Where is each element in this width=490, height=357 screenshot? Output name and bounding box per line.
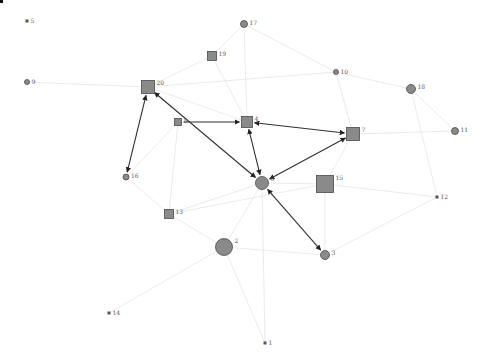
edge-7-4[interactable]: [255, 123, 345, 133]
faint-edge-20-10: [148, 72, 336, 87]
graph-node[interactable]: 18: [0, 0, 425, 94]
graph-node[interactable]: 14: [108, 309, 121, 316]
faint-edge-4-17: [244, 24, 247, 122]
node-label: 20: [157, 79, 165, 86]
faint-edge-2-14: [109, 247, 224, 313]
faint-edge-19-4: [212, 56, 247, 122]
circle-node-icon: [321, 251, 330, 260]
dot-node-icon: [26, 20, 29, 23]
graph-node[interactable]: 12: [436, 193, 449, 200]
node-label: 1: [269, 339, 273, 346]
edge-16-20[interactable]: [127, 95, 146, 172]
faint-edge-16-13: [126, 177, 169, 214]
circle-node-icon: [25, 80, 30, 85]
node-label: 14: [113, 309, 121, 316]
faint-edge-6-15: [262, 183, 325, 184]
graph-node[interactable]: 6: [0, 0, 275, 190]
faint-edge-3-12: [325, 197, 437, 255]
square-node-icon: [165, 210, 174, 219]
node-label: 12: [441, 193, 449, 200]
faint-edge-layer: [27, 24, 455, 343]
node-layer: 1234567891011121314151617181920: [0, 0, 468, 346]
edge-4-6[interactable]: [249, 129, 260, 174]
faint-edge-18-11: [411, 89, 455, 131]
faint-edge-7-11: [353, 131, 455, 134]
node-label: 9: [32, 78, 36, 85]
graph-node[interactable]: 16: [0, 0, 139, 180]
node-label: 8: [184, 117, 188, 124]
node-label: 11: [461, 126, 469, 133]
square-node-icon: [347, 128, 360, 141]
edge-6-3[interactable]: [268, 189, 321, 250]
square-node-icon: [175, 119, 182, 126]
circle-node-icon: [123, 174, 129, 180]
graph-node[interactable]: 10: [0, 0, 348, 75]
faint-edge-13-15: [169, 184, 325, 214]
dot-node-icon: [436, 196, 439, 199]
graph-node[interactable]: 20: [0, 0, 164, 94]
graph-node[interactable]: 2: [0, 0, 239, 256]
node-label: 17: [250, 19, 258, 26]
node-label: 5: [31, 17, 35, 24]
node-label: 16: [131, 172, 139, 179]
node-label: 15: [336, 174, 344, 181]
faint-edge-2-1: [224, 247, 265, 343]
square-node-icon: [317, 176, 334, 193]
node-label: 19: [219, 50, 227, 57]
graph-node[interactable]: 5: [26, 17, 35, 24]
square-node-icon: [142, 81, 155, 94]
circle-node-icon: [216, 239, 233, 256]
graph-node[interactable]: 11: [0, 0, 468, 135]
graph-node[interactable]: 19: [0, 0, 226, 61]
node-label: 18: [418, 83, 426, 90]
square-node-icon: [208, 52, 217, 61]
node-label: 4: [255, 115, 259, 122]
faint-edge-6-2: [224, 183, 262, 247]
graph-node[interactable]: 15: [0, 0, 343, 193]
node-label: 6: [271, 175, 275, 182]
node-label: 3: [332, 249, 336, 256]
faint-edge-13-8: [169, 122, 178, 214]
graph-node[interactable]: 17: [0, 0, 257, 28]
square-node-icon: [242, 117, 253, 128]
faint-edge-15-12: [325, 184, 437, 197]
faint-edge-20-4: [148, 87, 247, 122]
circle-node-icon: [407, 85, 416, 94]
node-label: 10: [341, 68, 349, 75]
network-graph-canvas[interactable]: 1234567891011121314151617181920: [0, 0, 490, 357]
faint-edge-2-13: [169, 214, 224, 247]
node-label: 13: [176, 208, 184, 215]
edge-stub-icon: [0, 0, 3, 3]
graph-node[interactable]: 4: [0, 0, 259, 128]
faint-edge-8-16: [126, 122, 178, 177]
circle-node-icon: [334, 70, 339, 75]
faint-edge-17-10: [244, 24, 336, 72]
edge-20-6[interactable]: [155, 93, 256, 178]
edge-7-6[interactable]: [270, 138, 346, 179]
circle-node-icon: [452, 128, 459, 135]
circle-node-icon: [241, 21, 248, 28]
faint-edge-18-12: [411, 89, 437, 197]
circle-node-icon: [256, 177, 269, 190]
dot-node-icon: [264, 342, 267, 345]
node-label: 7: [362, 126, 366, 133]
node-label: 2: [235, 237, 239, 244]
graph-node[interactable]: 13: [0, 0, 183, 219]
graph-node[interactable]: 3: [0, 0, 336, 260]
graph-node[interactable]: 8: [0, 0, 188, 126]
faint-edge-10-18: [336, 72, 411, 89]
dot-node-icon: [108, 312, 111, 315]
faint-edge-10-7: [336, 72, 353, 134]
faint-edge-9-20: [27, 82, 148, 87]
faint-edge-2-3: [224, 247, 325, 255]
graph-node[interactable]: 9: [0, 0, 36, 85]
faint-edge-1-6: [262, 183, 265, 343]
